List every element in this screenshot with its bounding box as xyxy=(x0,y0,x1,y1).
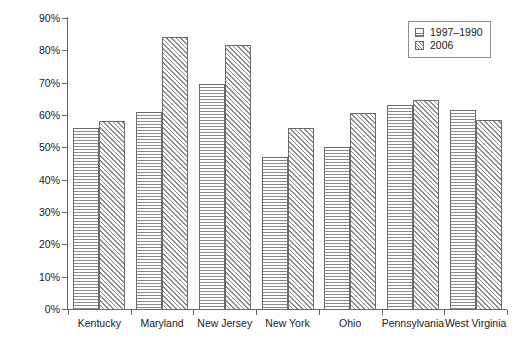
y-tick-label-wrap: 0% xyxy=(0,304,60,314)
bar-maryland-2006 xyxy=(162,37,188,310)
y-tick-label: 0% xyxy=(18,304,60,314)
y-tick-label: 70% xyxy=(18,78,60,88)
x-category-label: New Jersey xyxy=(193,317,256,329)
legend-item: 2006 xyxy=(415,39,483,52)
bar-pennsylvania-1997-1990 xyxy=(387,105,413,310)
bar-chart: Price ratio (industrial/residential) 0%1… xyxy=(0,0,517,340)
x-tick-mark xyxy=(131,310,132,315)
y-tick-label-wrap: 30% xyxy=(0,207,60,217)
y-tick-label-wrap: 90% xyxy=(0,13,60,23)
y-tick-mark xyxy=(62,244,67,245)
x-tick-mark xyxy=(444,310,445,315)
x-tick-mark xyxy=(319,310,320,315)
legend-swatch-icon xyxy=(415,28,424,37)
legend-swatch-icon xyxy=(415,41,424,50)
legend-label: 1997–1990 xyxy=(430,27,483,38)
y-tick-label: 80% xyxy=(18,45,60,55)
bar-kentucky-2006 xyxy=(99,121,125,310)
y-tick-label-wrap: 50% xyxy=(0,142,60,152)
y-tick-label-wrap: 10% xyxy=(0,272,60,282)
x-tick-mark xyxy=(193,310,194,315)
y-tick-mark xyxy=(62,277,67,278)
y-tick-label: 40% xyxy=(18,175,60,185)
y-tick-label: 20% xyxy=(18,239,60,249)
y-tick-label-wrap: 80% xyxy=(0,45,60,55)
bar-new-york-1997-1990 xyxy=(262,157,288,310)
legend-label: 2006 xyxy=(430,40,453,51)
x-tick-mark xyxy=(68,310,69,315)
y-tick-mark xyxy=(62,18,67,19)
x-category-label: Ohio xyxy=(319,317,382,329)
x-tick-mark xyxy=(256,310,257,315)
bar-pennsylvania-2006 xyxy=(413,100,439,310)
x-category-label: New York xyxy=(256,317,319,329)
bar-maryland-1997-1990 xyxy=(136,112,162,310)
plot-area xyxy=(68,18,507,309)
bar-ohio-1997-1990 xyxy=(324,147,350,310)
bar-new-jersey-2006 xyxy=(225,45,251,310)
y-tick-mark xyxy=(62,115,67,116)
x-category-label: Maryland xyxy=(131,317,194,329)
bar-new-york-2006 xyxy=(288,128,314,310)
y-tick-label-wrap: 20% xyxy=(0,239,60,249)
y-tick-label: 60% xyxy=(18,110,60,120)
y-tick-label-wrap: 60% xyxy=(0,110,60,120)
y-tick-mark xyxy=(62,147,67,148)
x-category-label: West Virginia xyxy=(444,317,507,329)
y-tick-label: 50% xyxy=(18,142,60,152)
y-tick-mark xyxy=(62,180,67,181)
legend-item: 1997–1990 xyxy=(415,26,483,39)
y-tick-label-wrap: 40% xyxy=(0,175,60,185)
y-tick-label-wrap: 70% xyxy=(0,78,60,88)
x-tick-mark xyxy=(382,310,383,315)
bar-west-virginia-1997-1990 xyxy=(450,110,476,310)
y-tick-mark xyxy=(62,212,67,213)
x-category-label: Kentucky xyxy=(68,317,131,329)
y-tick-label: 90% xyxy=(18,13,60,23)
chart-legend: 1997–1990 2006 xyxy=(408,21,491,58)
x-category-label: Pennsylvania xyxy=(382,317,445,329)
x-tick-mark xyxy=(507,310,508,315)
y-tick-mark xyxy=(62,309,67,310)
bar-kentucky-1997-1990 xyxy=(73,128,99,310)
y-tick-mark xyxy=(62,50,67,51)
bar-west-virginia-2006 xyxy=(476,120,502,310)
y-tick-label: 10% xyxy=(18,272,60,282)
y-tick-mark xyxy=(62,83,67,84)
y-tick-label: 30% xyxy=(18,207,60,217)
bar-new-jersey-1997-1990 xyxy=(199,84,225,310)
bar-ohio-2006 xyxy=(350,113,376,310)
